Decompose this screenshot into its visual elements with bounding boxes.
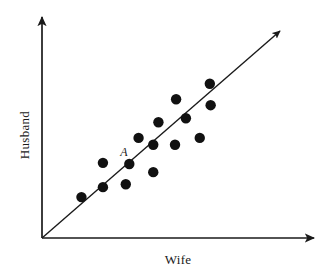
data-points-group	[76, 79, 216, 203]
data-point	[181, 113, 191, 123]
data-point-label-a: A	[120, 145, 127, 160]
scatter-plot-figure: Husband Wife A	[0, 0, 334, 275]
data-point	[124, 159, 134, 169]
data-point	[98, 182, 108, 192]
x-axis-label: Wife	[165, 252, 192, 268]
data-point	[205, 79, 215, 89]
data-point	[171, 94, 181, 104]
y-axis-label: Husband	[17, 111, 33, 159]
data-point	[98, 158, 108, 168]
data-point	[148, 167, 158, 177]
data-point	[195, 133, 205, 143]
equality-reference-line	[42, 31, 280, 238]
data-point	[76, 192, 86, 202]
data-point	[121, 179, 131, 189]
plot-canvas	[0, 0, 334, 275]
data-point	[148, 140, 158, 150]
data-point	[205, 100, 215, 110]
data-point	[133, 133, 143, 143]
data-point	[153, 117, 163, 127]
data-point	[170, 140, 180, 150]
